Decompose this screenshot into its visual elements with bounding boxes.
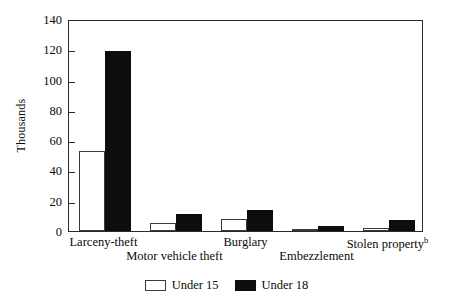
x-axis-label: Stolen propertyb (347, 236, 429, 251)
bar-under-18 (247, 210, 273, 231)
bar-chart-figure: Thousands 140120100806040200 Larceny-the… (0, 0, 453, 308)
y-axis-tick-label: 60 (16, 135, 62, 148)
x-axis-label: Larceny-theft (69, 236, 137, 249)
y-axis-tick-label: 40 (16, 165, 62, 178)
legend-item: Under 15 (145, 279, 219, 292)
y-axis-tick-mark (69, 142, 75, 143)
bar-under-15 (292, 229, 318, 231)
bar-under-18 (176, 214, 202, 231)
plot-area (68, 20, 423, 232)
chart-legend: Under 15Under 18 (0, 279, 453, 292)
legend-swatch-u18 (235, 280, 256, 291)
legend-item: Under 18 (235, 279, 309, 292)
y-axis-tick-label: 120 (16, 44, 62, 57)
bar-under-18 (105, 51, 131, 231)
bar-under-15 (221, 219, 247, 231)
y-axis-tick-mark (69, 172, 75, 173)
y-axis-tick-label: 20 (16, 196, 62, 209)
bar-under-15 (79, 151, 105, 231)
legend-label: Under 15 (172, 279, 219, 292)
x-axis-label: Motor vehicle theft (126, 250, 223, 263)
y-axis-tick-mark (69, 51, 75, 52)
bar-under-18 (389, 220, 415, 231)
bar-under-15 (363, 228, 389, 231)
x-axis-label: Embezzlement (279, 250, 353, 263)
bar-under-15 (150, 223, 176, 231)
y-axis-tick-label: 100 (16, 75, 62, 88)
x-axis-label-footnote: b (424, 235, 428, 245)
legend-swatch-u15 (145, 280, 166, 291)
y-axis-tick-mark (69, 203, 75, 204)
legend-label: Under 18 (262, 279, 309, 292)
y-axis-title: Thousands (14, 81, 29, 171)
y-axis-tick-label: 80 (16, 105, 62, 118)
y-axis-tick-label: 140 (16, 14, 62, 27)
y-axis-tick-label: 0 (16, 226, 62, 239)
y-axis-tick-mark (69, 82, 75, 83)
bar-under-18 (318, 226, 344, 231)
x-axis-label: Burglary (223, 236, 267, 249)
y-axis-tick-mark (69, 112, 75, 113)
